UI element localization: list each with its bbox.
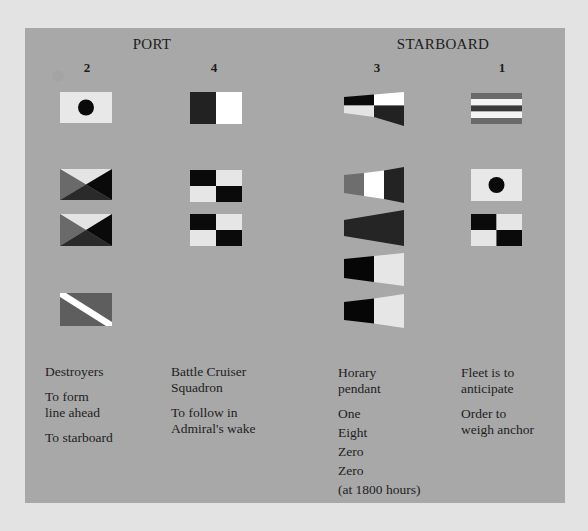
checkered-flag-icon [190,170,242,202]
description-line: One [338,406,420,422]
description-line: To starboard [45,430,113,446]
white-flag-black-dot-icon [60,92,112,123]
starboard-heading: STARBOARD [397,36,489,53]
description-line: Battle Cruiser [171,364,256,380]
diagonal-stripe-flag-icon [60,293,112,326]
port-heading: PORT [133,36,172,53]
description-line: Zero [338,444,420,460]
column-number-4: 4 [211,60,218,76]
description-line: pendant [338,381,420,397]
white-flag-black-dot-icon [471,169,522,201]
dark-pennant-icon [344,210,404,246]
description-line: Zero [338,463,420,479]
description-line: line ahead [45,405,113,421]
description-column-4: Battle Cruiser Squadron To follow in Adm… [171,364,256,437]
description-column-2: Destroyers To form line ahead To starboa… [45,364,113,446]
half-dark-half-white-flag-icon [190,92,242,124]
description-line: To form [45,389,113,405]
description-line: Eight [338,425,420,441]
description-line: Fleet is to [461,365,534,381]
black-white-pennant-icon [344,253,404,286]
smudge-mark [52,70,64,82]
checkered-flag-icon [190,214,242,246]
three-band-pennant-icon [344,167,404,203]
column-number-2: 2 [84,60,91,76]
description-line: Squadron [171,380,256,396]
description-line: Horary [338,365,420,381]
description-line: Destroyers [45,364,113,380]
quartered-pennant-icon [344,92,404,127]
horizontal-striped-flag-icon [471,93,522,124]
description-line: anticipate [461,381,534,397]
column-number-1: 1 [499,60,506,76]
black-white-pennant-icon [344,294,404,328]
column-number-3: 3 [374,60,381,76]
description-line: (at 1800 hours) [338,482,420,498]
checkered-flag-icon [471,214,522,246]
description-line: weigh anchor [461,422,534,438]
diagonal-quartered-flag-icon [60,214,112,246]
description-line: Admiral's wake [171,421,256,437]
description-line: Order to [461,406,534,422]
description-column-3: Horary pendant One Eight Zero Zero (at 1… [338,365,420,498]
description-line: To follow in [171,405,256,421]
diagonal-quartered-flag-icon [60,169,112,200]
description-column-1: Fleet is to anticipate Order to weigh an… [461,365,534,438]
